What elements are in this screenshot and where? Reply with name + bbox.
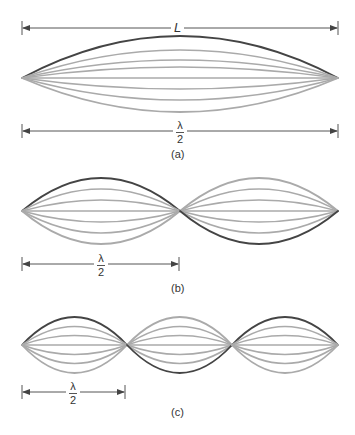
denominator-two: 2 xyxy=(177,134,183,145)
standing-wave-c xyxy=(22,317,338,373)
panel-b xyxy=(22,178,338,271)
lambda-symbol: λ xyxy=(70,381,76,392)
half-wavelength-label-b: λ 2 xyxy=(94,253,108,278)
lambda-symbol: λ xyxy=(177,120,183,131)
caption-a: (a) xyxy=(171,149,184,160)
lambda-symbol: λ xyxy=(98,253,104,264)
half-wavelength-label-c: λ 2 xyxy=(66,381,80,406)
denominator-two: 2 xyxy=(98,267,104,278)
caption-c: (c) xyxy=(171,407,184,418)
standing-wave-a xyxy=(22,36,338,112)
standing-wave-b xyxy=(22,178,338,244)
standing-waves-figure xyxy=(0,0,355,435)
denominator-two: 2 xyxy=(70,395,76,406)
length-label-L: L xyxy=(171,21,184,34)
caption-b: (b) xyxy=(171,283,184,294)
half-wavelength-label-a: λ 2 xyxy=(173,120,187,145)
